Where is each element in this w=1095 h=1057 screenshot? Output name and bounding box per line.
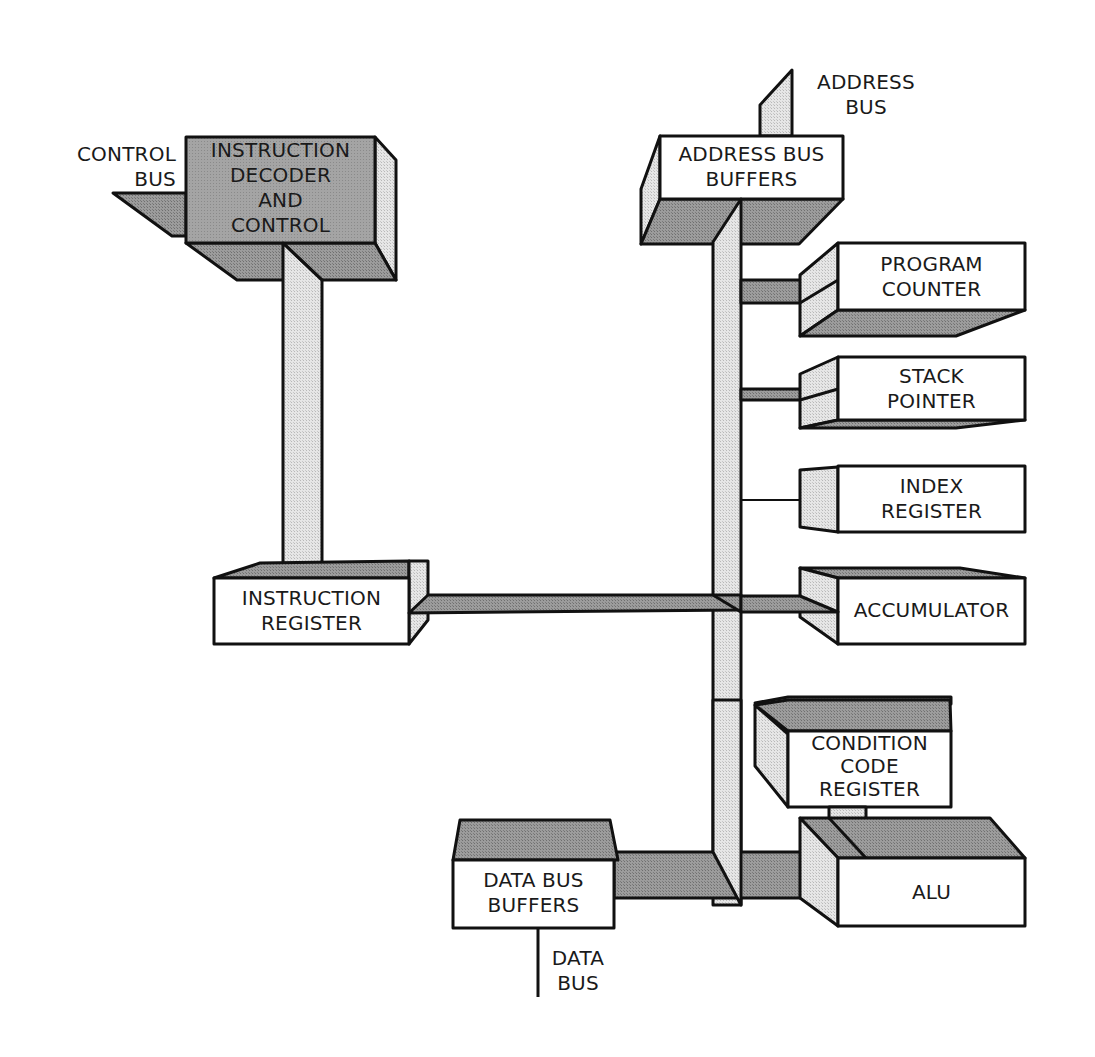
alu-label: ALU (838, 880, 1025, 905)
control-bus-label: CONTROL BUS (40, 142, 176, 192)
accumulator-label: ACCUMULATOR (838, 598, 1025, 623)
address-bus-connector (760, 70, 792, 136)
alu-block (800, 818, 1025, 926)
decoder-to-ir-bus (283, 243, 322, 600)
ir-to-accumulator-bus (409, 595, 838, 613)
data-bus-buffers-label: DATA BUS BUFFERS (453, 868, 614, 918)
index-register-label: INDEX REGISTER (838, 474, 1025, 524)
stack-pointer-label: STACK POINTER (838, 364, 1025, 414)
address-bus-buffers-label: ADDRESS BUS BUFFERS (660, 142, 843, 192)
program-counter-label: PROGRAM COUNTER (838, 252, 1025, 302)
data-bus-label: DATA BUS (548, 946, 608, 996)
instruction-decoder-label: INSTRUCTION DECODER AND CONTROL (186, 138, 375, 238)
condition-code-register-label: CONDITION CODE REGISTER (788, 732, 951, 801)
address-bus-label: ADDRESS BUS (806, 70, 926, 120)
instruction-register-label: INSTRUCTION REGISTER (214, 586, 409, 636)
control-bus-connector (113, 193, 186, 236)
cpu-block-diagram: CONTROL BUS INSTRUCTION DECODER AND CONT… (0, 0, 1095, 1057)
